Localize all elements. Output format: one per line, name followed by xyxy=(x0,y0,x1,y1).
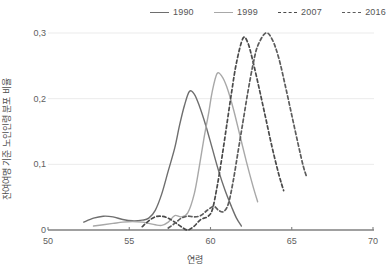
chart-canvas xyxy=(0,0,389,277)
y-tick-label-1: 0,1 xyxy=(20,159,46,169)
y-axis-title: 잔여여명 기준 노인인령 분포 비율 xyxy=(0,54,13,224)
series-line-2007 xyxy=(142,37,283,230)
x-tick-label-1: 55 xyxy=(124,236,134,246)
y-axis-ticks: 00,10,20,3 xyxy=(12,0,46,277)
y-tick-label-3: 0,3 xyxy=(20,28,46,38)
axis-lines xyxy=(48,227,374,230)
series-line-1999 xyxy=(94,73,258,226)
x-axis-title: 연령 xyxy=(0,253,389,266)
x-tick-label-3: 65 xyxy=(287,236,297,246)
x-tick-label-0: 50 xyxy=(43,236,53,246)
series-line-1990 xyxy=(84,91,242,226)
plot-area: 00,10,20,3 5055606570 잔여여명 기준 노인인령 분포 비율… xyxy=(0,0,389,277)
chart-container: 1990 1999 2007 2016 00,10,20,3 505560657… xyxy=(0,0,389,277)
y-tick-label-2: 0,2 xyxy=(20,94,46,104)
x-tick-label-2: 60 xyxy=(205,236,215,246)
x-tick-label-4: 70 xyxy=(368,236,378,246)
y-tick-label-0: 0 xyxy=(20,225,46,235)
series-lines xyxy=(84,33,307,230)
